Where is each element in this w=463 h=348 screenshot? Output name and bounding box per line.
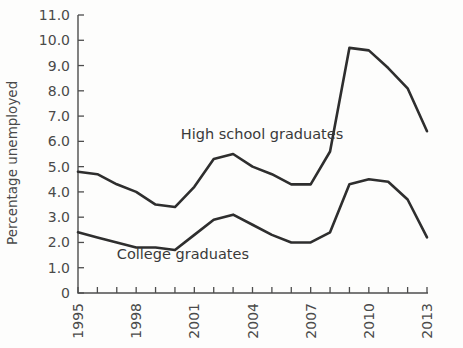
y-axis-ticks: 01.02.03.04.05.06.07.08.09.010.011.0 (39, 7, 84, 301)
y-tick-label: 6.0 (48, 133, 70, 149)
x-tick-label: 2001 (186, 303, 202, 339)
y-tick-label: 3.0 (48, 209, 70, 225)
y-tick-label: 4.0 (48, 184, 70, 200)
x-tick-label: 1998 (128, 303, 144, 339)
y-tick-label: 5.0 (48, 159, 70, 175)
y-tick-label: 2.0 (48, 234, 70, 250)
chart-canvas: Percentage unemployed 01.02.03.04.05.06.… (0, 0, 463, 348)
series-label-college-graduates: College graduates (117, 246, 249, 262)
series-label-high-school-graduates: High school graduates (181, 126, 344, 142)
y-axis-label-text: Percentage unemployed (4, 81, 20, 245)
y-tick-label: 1.0 (48, 260, 70, 276)
data-series-group (78, 48, 427, 250)
x-tick-label: 1995 (70, 303, 86, 339)
y-tick-label: 0 (61, 285, 70, 301)
x-axis-ticks: 1995199820012004200720102013 (70, 287, 435, 339)
y-tick-label: 7.0 (48, 108, 70, 124)
unemployment-line-chart: Percentage unemployed 01.02.03.04.05.06.… (0, 0, 463, 348)
y-tick-label: 8.0 (48, 83, 70, 99)
x-tick-label: 2010 (361, 303, 377, 339)
y-axis-label: Percentage unemployed (4, 81, 20, 245)
y-tick-label: 10.0 (39, 32, 70, 48)
x-tick-label: 2004 (245, 303, 261, 339)
x-tick-label: 2013 (419, 303, 435, 339)
y-tick-label: 11.0 (39, 7, 70, 23)
x-tick-label: 2007 (303, 303, 319, 339)
y-tick-label: 9.0 (48, 58, 70, 74)
